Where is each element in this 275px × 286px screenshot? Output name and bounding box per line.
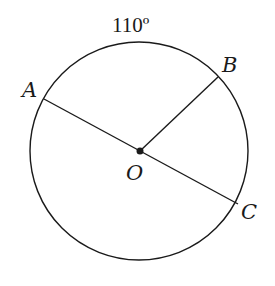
point-c-label: C <box>241 200 257 224</box>
point-b-label: B <box>221 53 237 77</box>
center-o-label: O <box>126 161 143 185</box>
radius-ob <box>140 77 218 151</box>
point-a-label: A <box>20 78 37 102</box>
arc-measure-label: 110º <box>112 13 150 37</box>
center-point-o <box>137 148 144 155</box>
circle-diagram: 110º A B C O <box>0 0 275 286</box>
